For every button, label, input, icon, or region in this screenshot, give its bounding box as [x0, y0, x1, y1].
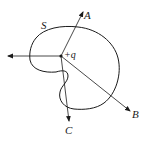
arrow-label-c: C	[65, 124, 73, 136]
arrow-b	[61, 56, 130, 111]
arrow-c	[61, 56, 69, 121]
gauss-surface-diagram: S +q A B C	[0, 0, 145, 146]
arrow-label-b: B	[132, 108, 139, 120]
surface-label: S	[41, 19, 47, 31]
arrow-label-a: A	[83, 9, 91, 21]
charge-point	[59, 54, 62, 57]
charge-label: +q	[64, 49, 76, 60]
closed-surface-s	[30, 26, 119, 109]
